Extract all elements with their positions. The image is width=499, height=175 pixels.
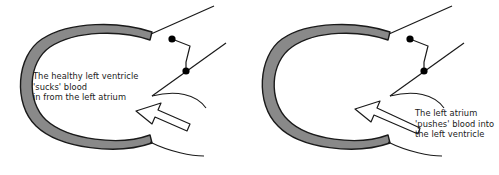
ventricle-myocardium-right — [262, 24, 390, 149]
blood-flow-arrow-left — [136, 103, 190, 131]
caption-line: The healthy left ventricle — [33, 71, 138, 82]
caption-healthy-ventricle: The healthy left ventricle 'sucks' blood… — [33, 71, 138, 103]
figure-canvas: The healthy left ventricle 'sucks' blood… — [0, 0, 499, 175]
valve-chordae-right — [410, 39, 428, 71]
valve-dot-upper-right — [406, 35, 413, 42]
blood-flow-arrow-right — [355, 101, 420, 134]
valve-dot-lower-left — [182, 67, 189, 74]
caption-line: in from the left atrium — [33, 92, 138, 103]
ventricle-apex-tail-right — [388, 142, 442, 156]
valve-chordae-left — [172, 39, 190, 71]
caption-line: 'sucks' blood — [33, 82, 138, 93]
valve-dot-lower-right — [420, 67, 427, 74]
caption-atrial-push-ventricle: The left atrium 'pushes' blood into the … — [415, 108, 494, 140]
mitral-valve-leaflet-upper-left — [151, 6, 214, 34]
valve-dot-upper-left — [168, 35, 175, 42]
ventricle-apex-tail-left — [150, 142, 204, 156]
caption-line: The left atrium — [415, 108, 494, 119]
mitral-valve-leaflet-upper-right — [389, 6, 452, 34]
atrium-wall-curve-upper-right — [390, 93, 444, 108]
caption-line: 'pushes' blood into — [415, 119, 494, 130]
caption-line: the left ventricle — [415, 129, 494, 140]
